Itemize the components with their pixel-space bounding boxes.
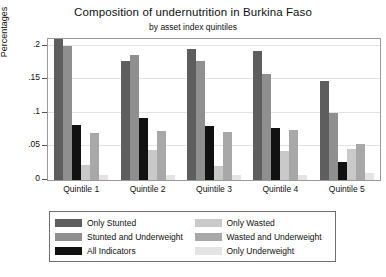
legend-item[interactable]: Stunted and Underweight — [55, 230, 191, 244]
y-tick-label: 0 — [35, 173, 40, 183]
bar — [253, 51, 262, 180]
bar — [289, 130, 298, 180]
bar — [271, 128, 280, 180]
bar — [54, 39, 63, 180]
legend-label: Stunted and Underweight — [87, 232, 183, 242]
chart-subtitle: by asset index quintiles — [0, 22, 386, 32]
bar-group — [187, 39, 241, 180]
x-axis-label: Quintile 4 — [262, 184, 298, 198]
bar — [121, 61, 130, 181]
legend-label: Only Stunted — [87, 218, 136, 228]
bar — [72, 125, 81, 180]
bar — [347, 149, 356, 180]
bar-group — [121, 39, 175, 180]
legend-swatch — [195, 219, 222, 227]
legend-item[interactable]: All Indicators — [55, 244, 191, 258]
x-axis-labels: Quintile 1Quintile 2Quintile 3Quintile 4… — [48, 184, 380, 198]
legend-label: Only Wasted — [227, 218, 275, 228]
legend-swatch — [55, 219, 82, 227]
legend-swatch — [55, 233, 82, 241]
chart-legend: Only StuntedOnly WastedStunted and Under… — [49, 211, 336, 262]
legend-item[interactable]: Only Stunted — [55, 216, 191, 230]
legend-item[interactable]: Wasted and Underweight — [195, 230, 331, 244]
bar — [329, 113, 338, 180]
bar — [99, 175, 108, 180]
legend-swatch — [195, 233, 222, 241]
x-axis-label: Quintile 5 — [329, 184, 365, 198]
bar — [139, 118, 148, 180]
bar — [320, 81, 329, 180]
x-axis-label: Quintile 3 — [196, 184, 232, 198]
bar-groups — [48, 39, 380, 180]
bar — [232, 175, 241, 180]
bar-group — [54, 39, 108, 180]
bar — [166, 175, 175, 180]
chart-title: Composition of undernutrition in Burkina… — [0, 6, 386, 18]
legend-label: Wasted and Underweight — [227, 232, 322, 242]
legend-label: All Indicators — [87, 246, 136, 256]
y-tick-label: .2 — [33, 39, 40, 49]
bar — [187, 49, 196, 180]
bar — [356, 144, 365, 180]
bar-group — [320, 39, 374, 180]
legend-item[interactable]: Only Underweight — [195, 244, 331, 258]
bar — [81, 165, 90, 180]
bar — [365, 173, 374, 180]
bar — [262, 74, 271, 180]
bar — [214, 166, 223, 180]
bar — [90, 133, 99, 180]
bar — [157, 131, 166, 180]
bar — [338, 162, 347, 180]
x-axis-label: Quintile 2 — [130, 184, 166, 198]
y-tick-label: .15 — [28, 72, 40, 82]
bar — [223, 132, 232, 180]
bar-group — [253, 39, 307, 180]
bar — [148, 150, 157, 180]
bar — [196, 61, 205, 181]
y-axis-ticks: 0.05.1.15.2 — [0, 38, 47, 181]
bar — [298, 175, 307, 180]
bar — [130, 55, 139, 180]
legend-swatch — [55, 247, 82, 255]
bar — [280, 151, 289, 180]
bar — [205, 126, 214, 180]
chart-page: Composition of undernutrition in Burkina… — [0, 0, 386, 277]
y-tick-label: .1 — [33, 106, 40, 116]
legend-item[interactable]: Only Wasted — [195, 216, 331, 230]
x-axis-label: Quintile 1 — [63, 184, 99, 198]
bar — [63, 46, 72, 180]
legend-label: Only Underweight — [227, 246, 295, 256]
legend-swatch — [195, 247, 222, 255]
y-tick-label: .05 — [28, 139, 40, 149]
